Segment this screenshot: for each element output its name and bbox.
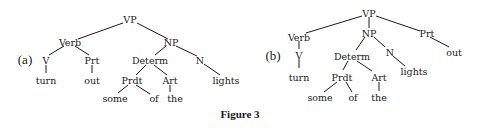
tree-a-node-art: Art — [161, 75, 177, 86]
tree-a-leaf-turn: turn — [36, 75, 57, 86]
tree-a-leaf-some: some — [102, 93, 128, 104]
tree-a-leaf-out: out — [84, 75, 100, 86]
tree-b-node-np: NP — [362, 28, 377, 39]
tree-b-leaf-lights: lights — [401, 66, 428, 77]
tree-b: (b) VP Verb NP Prt V Determ N out turn P… — [265, 8, 462, 103]
tree-b-leaf-of: of — [348, 92, 359, 103]
figure-3-diagram: (a) VP Verb NP V Prt Determ N turn out P… — [0, 0, 477, 128]
tree-b-node-prdt: Prdt — [332, 72, 353, 83]
tree-a-leaf-lights: lights — [213, 75, 240, 86]
tree-b-node-n: N — [386, 47, 394, 58]
tree-a: (a) VP Verb NP V Prt Determ N turn out P… — [18, 14, 240, 104]
tree-b-node-vp: VP — [361, 8, 376, 19]
tree-a-node-vp: VP — [122, 14, 137, 25]
tree-a-node-n: N — [196, 55, 204, 66]
tree-b-node-v: V — [295, 50, 303, 61]
figure-caption: Figure 3 — [220, 108, 260, 120]
tree-a-node-verb: Verb — [58, 37, 81, 48]
tree-a-node-prt: Prt — [85, 55, 100, 66]
tree-b-node-prt: Prt — [420, 28, 435, 39]
tree-b-leaf-some: some — [307, 92, 333, 103]
tree-b-node-art: Art — [370, 72, 386, 83]
tree-a-node-np: NP — [164, 37, 179, 48]
tree-b-leaf-out: out — [446, 47, 462, 58]
tree-b-node-determ: Determ — [334, 51, 370, 62]
tree-b-label: (b) — [265, 48, 280, 63]
tree-a-node-prdt: Prdt — [122, 75, 143, 86]
tree-a-leaf-of: of — [149, 93, 160, 104]
tree-b-node-verb: Verb — [287, 32, 310, 43]
tree-b-leaf-the: the — [371, 92, 387, 103]
tree-a-label: (a) — [18, 52, 32, 67]
tree-b-leaf-turn: turn — [289, 72, 310, 83]
tree-a-node-v: V — [42, 55, 50, 66]
tree-a-node-determ: Determ — [132, 55, 168, 66]
tree-a-leaf-the: the — [167, 93, 183, 104]
